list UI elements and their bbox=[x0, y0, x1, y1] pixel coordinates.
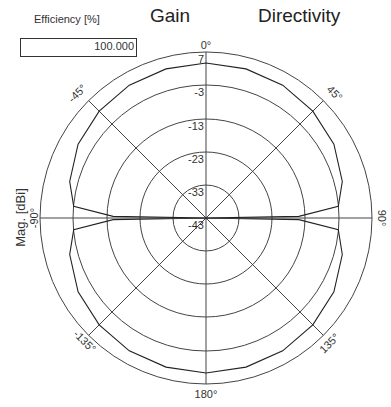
svg-text:-43: -43 bbox=[188, 219, 204, 231]
svg-text:-13: -13 bbox=[188, 120, 204, 132]
svg-text:-23: -23 bbox=[188, 153, 204, 165]
svg-text:90°: 90° bbox=[376, 210, 388, 227]
svg-text:0°: 0° bbox=[201, 39, 212, 51]
svg-text:-33: -33 bbox=[188, 186, 204, 198]
svg-text:-90°: -90° bbox=[28, 208, 40, 228]
svg-text:-3: -3 bbox=[194, 86, 204, 98]
svg-text:135°: 135° bbox=[317, 331, 342, 356]
svg-text:180°: 180° bbox=[195, 388, 218, 400]
svg-text:45°: 45° bbox=[325, 83, 345, 103]
svg-text:-45°: -45° bbox=[66, 82, 89, 105]
radial-labels: 7 -3 -13 -23 -33 -43 bbox=[188, 53, 204, 231]
svg-text:-135°: -135° bbox=[71, 328, 98, 355]
polar-chart: 0° 180° 45° -45° 135° -135° -90° 90° 7 -… bbox=[0, 0, 391, 407]
svg-text:7: 7 bbox=[198, 53, 204, 65]
